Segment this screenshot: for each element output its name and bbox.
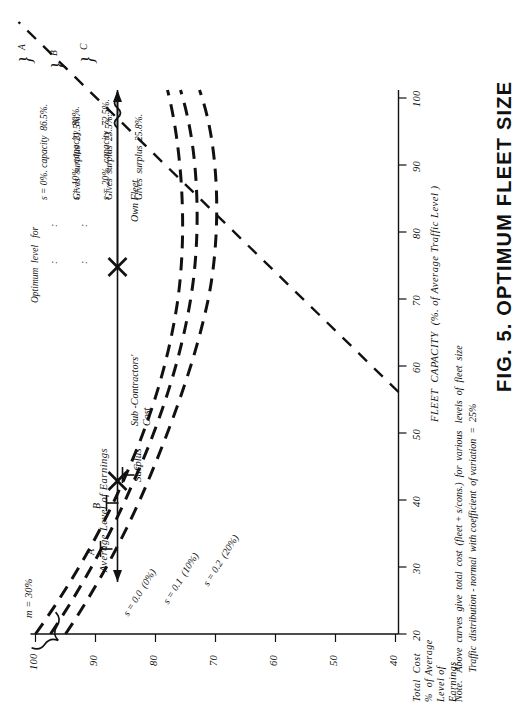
sub-contractors-cost-label: Sub -Contractors' Cost bbox=[128, 355, 152, 426]
legend-ditto-4: : bbox=[78, 224, 89, 227]
y-tick-70: 70 bbox=[207, 655, 218, 666]
y-tick-50: 50 bbox=[327, 655, 338, 666]
x-tick-60: 60 bbox=[410, 362, 421, 373]
note-line-1: Above curves give total cost (fleet + s/… bbox=[452, 345, 463, 672]
top-reference-axis-label: Average Level of Earnings bbox=[97, 448, 108, 572]
point-label-a: A bbox=[84, 549, 95, 555]
note-block: Note. Above curves give total cost (flee… bbox=[452, 345, 477, 702]
legend-ditto-mark-3: : bbox=[48, 224, 58, 227]
legend-row-c-line2: Gives surplus 25.8%. bbox=[133, 99, 144, 200]
legend-row-c-line1: s = 20%. capacity 72.5%. bbox=[100, 99, 111, 200]
legend-brace-c: } bbox=[82, 57, 93, 64]
legend-row-a-line1: s = 0%. capacity 86.5%. bbox=[38, 104, 49, 200]
legend-key-b: B bbox=[48, 50, 59, 56]
x-axis-ticks bbox=[398, 98, 406, 634]
legend-key-c: C bbox=[78, 44, 89, 50]
y-axis-ticks bbox=[35, 634, 395, 642]
y-tick-80: 80 bbox=[147, 655, 158, 666]
x-tick-90: 90 bbox=[410, 161, 421, 172]
legend-block: Optimum level for : : : : s = 0%. capaci… bbox=[18, 22, 114, 322]
x-tick-30: 30 bbox=[410, 563, 421, 574]
x-tick-100: 100 bbox=[410, 90, 421, 107]
legend-header: Optimum level for bbox=[18, 227, 51, 322]
point-label-b: B bbox=[90, 503, 101, 509]
y-tick-40: 40 bbox=[387, 655, 398, 666]
legend-ditto-mark-4: : bbox=[78, 224, 88, 227]
m-label: m = 30% bbox=[22, 579, 33, 618]
legend-brace-b: } bbox=[52, 63, 63, 70]
figure-title: FIG. 5. OPTIMUM FLEET SIZE bbox=[492, 81, 515, 392]
legend-ditto-mark-2: : bbox=[78, 261, 88, 264]
legend-ditto-1: : bbox=[48, 261, 59, 264]
note-line-2: Traffic distribution - normal with coeff… bbox=[466, 345, 477, 672]
x-axis-title: FLEET CAPACITY (%. of Average Traffic Le… bbox=[428, 186, 439, 422]
legend-ditto-3: : bbox=[48, 224, 59, 227]
x-tick-50: 50 bbox=[410, 429, 421, 440]
m-brace bbox=[31, 612, 70, 658]
y-tick-60: 60 bbox=[267, 655, 278, 666]
legend-key-a: A bbox=[16, 44, 27, 50]
legend-row-c: s = 20%. capacity 72.5%. Gives surplus 2… bbox=[78, 99, 166, 200]
point-label-c: C bbox=[131, 464, 142, 471]
legend-header-text: Optimum level for bbox=[29, 227, 39, 303]
x-tick-70: 70 bbox=[410, 295, 421, 306]
note-prefix: Note. bbox=[452, 681, 477, 702]
legend-ditto-2: : bbox=[78, 261, 89, 264]
legend-ditto-mark-1: : bbox=[48, 261, 58, 264]
x-tick-40: 40 bbox=[410, 496, 421, 507]
y-tick-100: 100 bbox=[27, 653, 38, 670]
y-axis-title: Total Cost % of Average Level of Earning… bbox=[410, 639, 458, 702]
x-tick-80: 80 bbox=[410, 228, 421, 239]
y-tick-90: 90 bbox=[87, 655, 98, 666]
legend-brace-a: } bbox=[20, 57, 31, 64]
